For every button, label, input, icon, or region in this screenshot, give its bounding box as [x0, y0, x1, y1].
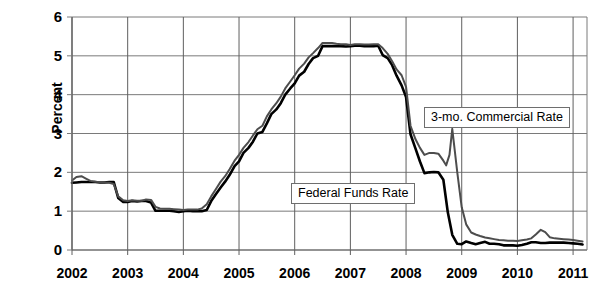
x-tick-label-2005: 2005 [209, 266, 269, 280]
y-tick-label-3: 3 [42, 126, 62, 141]
plot-area [0, 0, 615, 297]
x-tick-label-2009: 2009 [432, 266, 492, 280]
x-tick-label-2004: 2004 [153, 266, 213, 280]
annotation-commercial-rate: 3-mo. Commercial Rate [424, 107, 570, 128]
x-tick-label-2011: 2011 [543, 266, 603, 280]
x-tick-label-2010: 2010 [487, 266, 547, 280]
y-tick-label-4: 4 [42, 87, 62, 102]
gridlines [72, 17, 587, 250]
series-lines [72, 43, 583, 246]
y-tick-label-2: 2 [42, 164, 62, 179]
series-line-federal-funds-rate [72, 46, 583, 246]
y-tick-label-6: 6 [42, 9, 62, 24]
x-tick-label-2002: 2002 [42, 266, 102, 280]
annotation-federal-funds-rate: Federal Funds Rate [291, 183, 415, 204]
x-tick-label-2008: 2008 [376, 266, 436, 280]
y-tick-label-0: 0 [42, 242, 62, 257]
interest-rate-chart: Percent 0123456 200220032004200520062007… [0, 0, 615, 297]
x-tick-label-2006: 2006 [265, 266, 325, 280]
y-tick-label-1: 1 [42, 203, 62, 218]
series-line-commercial-rate [72, 43, 583, 241]
y-tick-label-5: 5 [42, 48, 62, 63]
x-tick-label-2007: 2007 [320, 266, 380, 280]
x-tick-label-2003: 2003 [98, 266, 158, 280]
